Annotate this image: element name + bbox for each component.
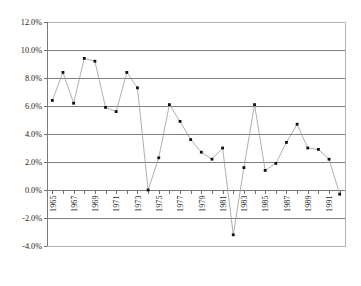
x-tick-label: 1987 [283, 196, 292, 212]
data-point [125, 71, 128, 74]
data-point [83, 57, 86, 60]
x-tick-label: 1967 [70, 196, 79, 212]
y-tick-label: 0.0% [25, 186, 42, 195]
data-point [306, 147, 309, 150]
x-tick-label: 1971 [112, 196, 121, 212]
x-tick-label: 1965 [49, 196, 58, 212]
y-tick-label: 6.0% [25, 102, 42, 111]
data-point [221, 147, 224, 150]
data-point [328, 158, 331, 161]
data-point [242, 166, 245, 169]
chart-background [0, 0, 361, 286]
data-point [51, 99, 54, 102]
x-tick-label: 1981 [219, 196, 228, 212]
data-point [179, 120, 182, 123]
data-point [157, 156, 160, 159]
data-point [211, 158, 214, 161]
line-chart: 12.0%10.0%8.0%6.0%4.0%2.0%0.0%-2.0%-4.0%… [0, 0, 361, 286]
data-point [338, 193, 341, 196]
y-tick-label: 2.0% [25, 158, 42, 167]
data-point [274, 162, 277, 165]
y-tick-label: 8.0% [25, 74, 42, 83]
x-tick-label: 1979 [198, 196, 207, 212]
y-tick-label: 10.0% [21, 46, 42, 55]
data-point [62, 71, 65, 74]
y-tick-label: -2.0% [22, 214, 42, 223]
chart-canvas: 12.0%10.0%8.0%6.0%4.0%2.0%0.0%-2.0%-4.0%… [0, 0, 361, 286]
y-tick-label: 4.0% [25, 130, 42, 139]
data-point [232, 233, 235, 236]
x-tick-label: 1989 [304, 196, 313, 212]
data-point [168, 103, 171, 106]
data-point [136, 86, 139, 89]
data-point [296, 123, 299, 126]
y-tick-label: 12.0% [21, 18, 42, 27]
data-point [72, 102, 75, 105]
data-point [253, 103, 256, 106]
y-tick-label: -4.0% [22, 242, 42, 251]
x-tick-label: 1975 [155, 196, 164, 212]
data-point [115, 110, 118, 113]
x-tick-label: 1991 [325, 196, 334, 212]
data-point [93, 60, 96, 63]
data-point [189, 138, 192, 141]
data-point [264, 169, 267, 172]
x-tick-label: 1983 [240, 196, 249, 212]
data-point [147, 189, 150, 192]
x-tick-label: 1973 [134, 196, 143, 212]
data-point [200, 151, 203, 154]
data-point [317, 148, 320, 151]
data-point [285, 141, 288, 144]
x-tick-label: 1985 [261, 196, 270, 212]
x-tick-label: 1977 [176, 196, 185, 212]
x-tick-label: 1969 [91, 196, 100, 212]
data-point [104, 106, 107, 109]
